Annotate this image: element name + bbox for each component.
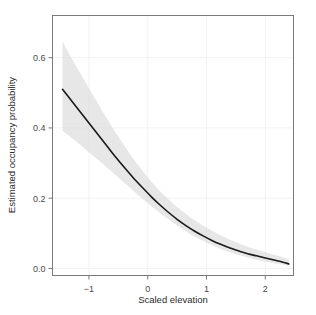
x-axis-title: Scaled elevation — [138, 294, 208, 305]
y-tick-label: 0.6 — [33, 53, 46, 63]
x-tick-label: 1 — [204, 284, 209, 294]
chart-background — [0, 0, 316, 315]
figure-container: −1012 0.00.20.40.6 Scaled elevation Esti… — [0, 0, 316, 315]
x-tick-label: 2 — [263, 284, 268, 294]
y-tick-label: 0.4 — [33, 123, 46, 133]
y-axis-title: Estimated occupancy probability — [6, 77, 17, 213]
occupancy-probability-chart: −1012 0.00.20.40.6 Scaled elevation Esti… — [0, 0, 316, 315]
y-tick-label: 0.0 — [33, 264, 46, 274]
y-tick-label: 0.2 — [33, 194, 46, 204]
x-tick-label: −1 — [84, 284, 94, 294]
x-tick-label: 0 — [145, 284, 150, 294]
